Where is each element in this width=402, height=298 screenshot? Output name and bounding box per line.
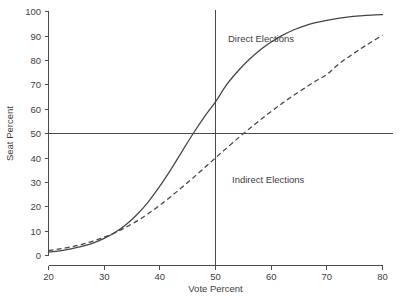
x-tick-label-30: 30 — [99, 271, 110, 282]
x-tick-label-70: 70 — [322, 271, 333, 282]
y-tick-label-0: 0 — [36, 250, 41, 261]
y-tick-label-80: 80 — [30, 55, 41, 66]
y-tick-label-90: 90 — [30, 31, 41, 42]
series-annotation-direct-elections: Direct Elections — [228, 33, 294, 44]
series-annotation-indirect-elections: Indirect Elections — [232, 174, 305, 185]
x-tick-label-60: 60 — [266, 271, 277, 282]
x-axis-title: Vote Percent — [188, 283, 243, 294]
y-tick-label-20: 20 — [30, 201, 41, 212]
y-tick-label-70: 70 — [30, 79, 41, 90]
y-tick-label-10: 10 — [30, 226, 41, 237]
x-tick-label-40: 40 — [155, 271, 166, 282]
x-tick-label-50: 50 — [210, 271, 221, 282]
y-tick-label-30: 30 — [30, 177, 41, 188]
chart-canvas: 100 90 80 70 60 50 40 30 20 10 0 Seat Pe… — [0, 0, 402, 298]
y-axis-title: Seat Percent — [4, 106, 15, 161]
x-tick-label-80: 80 — [377, 271, 388, 282]
y-tick-label-100: 100 — [25, 6, 41, 17]
x-tick-label-20: 20 — [43, 271, 54, 282]
y-tick-label-60: 60 — [30, 104, 41, 115]
y-tick-label-40: 40 — [30, 153, 41, 164]
y-tick-label-50: 50 — [30, 128, 41, 139]
seat-vote-curve-chart: 100 90 80 70 60 50 40 30 20 10 0 Seat Pe… — [0, 0, 402, 298]
